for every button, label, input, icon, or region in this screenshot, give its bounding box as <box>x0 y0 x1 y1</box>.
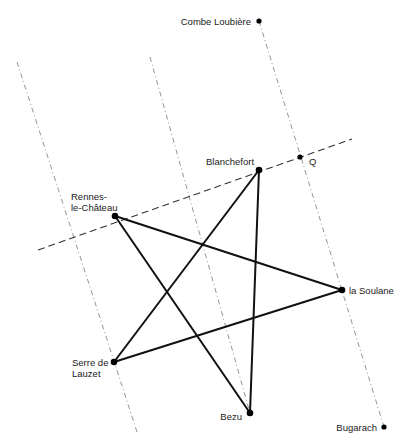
point-bugarach <box>381 424 386 429</box>
label-rennes-line2: le-Château <box>71 202 117 213</box>
reference-line-3 <box>259 21 384 427</box>
labels: Combe Loubière Q Blanchefort Rennes- le-… <box>71 16 394 433</box>
label-blanchefort: Blanchefort <box>206 156 254 167</box>
label-rennes-line1: Rennes- <box>71 191 107 202</box>
points <box>111 18 387 429</box>
label-bezu: Bezu <box>220 411 242 422</box>
edge-serre-blanchefort <box>114 170 259 362</box>
label-serre-line2: Lauzet <box>72 368 101 379</box>
point-combe-loubiere <box>256 18 261 23</box>
reference-line-2 <box>150 57 250 413</box>
pentagram-diagram: Combe Loubière Q Blanchefort Rennes- le-… <box>0 0 409 448</box>
edge-blanchefort-bezu <box>250 170 259 413</box>
label-combe-loubiere: Combe Loubière <box>181 16 251 27</box>
label-bugarach: Bugarach <box>336 422 377 433</box>
point-serre-de-lauzet <box>111 359 118 366</box>
label-serre-line1: Serre de <box>72 357 108 368</box>
label-la-soulane: la Soulane <box>349 285 394 296</box>
point-rennes-le-chateau <box>112 213 119 220</box>
label-q: Q <box>309 156 316 167</box>
edge-rennes-la-soulane <box>115 216 342 290</box>
pentagram <box>114 170 342 413</box>
point-la-soulane <box>339 287 346 294</box>
edge-la-soulane-serre <box>114 290 342 362</box>
edge-bezu-rennes <box>115 216 250 413</box>
point-bezu <box>247 410 254 417</box>
point-blanchefort <box>256 167 263 174</box>
point-q <box>297 154 302 159</box>
